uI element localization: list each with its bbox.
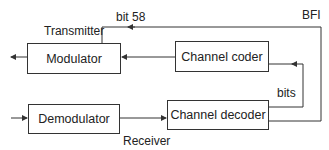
demodulator-label: Demodulator — [38, 112, 110, 126]
channel-coder-label: Channel coder — [181, 50, 262, 64]
bits-label: bits — [277, 86, 296, 100]
bit58-label: bit 58 — [116, 10, 145, 24]
transmitter-label: Transmitter — [44, 24, 104, 38]
channel-coder-block: Channel coder — [175, 41, 269, 72]
diagram-canvas: Modulator Channel coder Demodulator Chan… — [0, 0, 329, 150]
bfi-label: BFI — [302, 8, 321, 22]
demodulator-block: Demodulator — [28, 104, 120, 134]
modulator-block: Modulator — [27, 43, 121, 74]
channel-decoder-block: Channel decoder — [167, 100, 269, 130]
receiver-label: Receiver — [123, 134, 170, 148]
channel-decoder-label: Channel decoder — [170, 108, 265, 122]
modulator-label: Modulator — [46, 52, 102, 66]
